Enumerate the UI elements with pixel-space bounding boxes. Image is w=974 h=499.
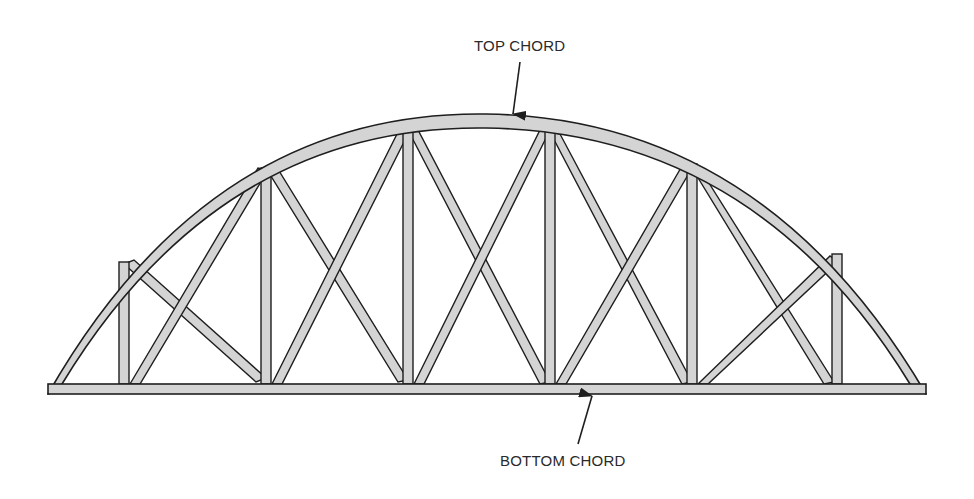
truss-diagram: TOP CHORD BOTTOM CHORD	[0, 0, 974, 499]
bottom-chord-label: BOTTOM CHORD	[500, 452, 625, 469]
vertical-post	[261, 168, 271, 384]
vertical-post	[545, 130, 555, 384]
top-chord-arrow	[513, 62, 520, 114]
bottom-chord	[48, 384, 926, 394]
vertical-post	[403, 130, 413, 384]
vertical-post	[687, 164, 697, 384]
diagonal-brace	[550, 132, 692, 384]
truss-drawing	[0, 0, 974, 499]
top-chord-label: TOP CHORD	[474, 37, 565, 54]
diagonal-braces	[124, 130, 838, 384]
bottom-chord-arrow	[578, 396, 592, 444]
